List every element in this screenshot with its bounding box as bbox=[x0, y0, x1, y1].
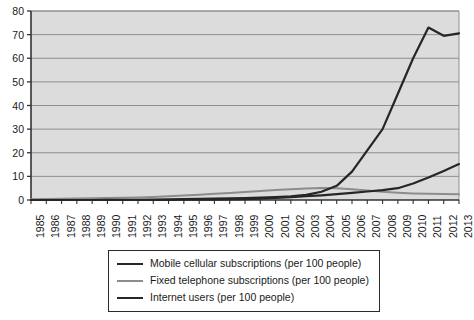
y-axis-label-40: 40 bbox=[2, 101, 24, 111]
x-axis-label-2005: 2005 bbox=[341, 215, 351, 238]
x-axis-label-1994: 1994 bbox=[173, 215, 183, 238]
legend-item-mobile-cellular: Mobile cellular subscriptions (per 100 p… bbox=[109, 255, 379, 272]
x-axis-label-1987: 1987 bbox=[66, 215, 76, 238]
x-axis-label-1985: 1985 bbox=[35, 215, 45, 238]
x-axis-label-2006: 2006 bbox=[356, 215, 366, 238]
x-axis-label-2001: 2001 bbox=[280, 215, 290, 238]
x-axis-label-2000: 2000 bbox=[264, 215, 274, 238]
legend-swatch-mobile-cellular bbox=[117, 263, 143, 265]
x-axis-label-2007: 2007 bbox=[371, 215, 381, 238]
x-axis-label-2010: 2010 bbox=[417, 215, 427, 238]
x-axis-label-1998: 1998 bbox=[234, 215, 244, 238]
y-axis-label-10: 10 bbox=[2, 171, 24, 181]
legend-label-mobile-cellular: Mobile cellular subscriptions (per 100 p… bbox=[150, 258, 361, 269]
x-axis-label-1993: 1993 bbox=[157, 215, 167, 238]
x-axis-label-1990: 1990 bbox=[111, 215, 121, 238]
x-axis-label-1995: 1995 bbox=[188, 215, 198, 238]
x-axis-label-2004: 2004 bbox=[325, 215, 335, 238]
legend-item-internet-users: Internet users (per 100 people) bbox=[109, 289, 379, 306]
legend-label-internet-users: Internet users (per 100 people) bbox=[150, 292, 294, 303]
legend-swatch-internet-users bbox=[117, 297, 143, 299]
legend-item-fixed-telephone: Fixed telephone subscriptions (per 100 p… bbox=[109, 272, 379, 289]
legend-label-fixed-telephone: Fixed telephone subscriptions (per 100 p… bbox=[150, 275, 369, 286]
y-axis-label-30: 30 bbox=[2, 124, 24, 134]
x-axis-label-1989: 1989 bbox=[96, 215, 106, 238]
x-axis-label-1988: 1988 bbox=[81, 215, 91, 238]
x-axis-label-1991: 1991 bbox=[127, 215, 137, 238]
legend-swatch-fixed-telephone bbox=[117, 280, 143, 282]
x-axis-label-2003: 2003 bbox=[310, 215, 320, 238]
x-axis-label-2011: 2011 bbox=[432, 215, 442, 238]
x-axis-label-1996: 1996 bbox=[203, 215, 213, 238]
x-axis-label-1986: 1986 bbox=[50, 215, 60, 238]
y-axis-label-50: 50 bbox=[2, 77, 24, 87]
x-axis-label-2013: 2013 bbox=[463, 215, 473, 238]
x-axis-label-2009: 2009 bbox=[402, 215, 412, 238]
y-axis-label-20: 20 bbox=[2, 148, 24, 158]
x-axis-label-1992: 1992 bbox=[142, 215, 152, 238]
x-axis-label-1997: 1997 bbox=[218, 215, 228, 238]
x-axis-label-2012: 2012 bbox=[448, 215, 458, 238]
y-axis-label-80: 80 bbox=[2, 6, 24, 16]
y-axis-label-60: 60 bbox=[2, 53, 24, 63]
y-axis-label-70: 70 bbox=[2, 30, 24, 40]
chart-legend: Mobile cellular subscriptions (per 100 p… bbox=[108, 250, 380, 312]
x-axis-label-2002: 2002 bbox=[295, 215, 305, 238]
x-axis-label-2008: 2008 bbox=[387, 215, 397, 238]
line-chart-figure: 01020304050607080 1985198619871988198919… bbox=[0, 0, 474, 320]
x-axis-label-1999: 1999 bbox=[249, 215, 259, 238]
y-axis-label-0: 0 bbox=[2, 195, 24, 205]
